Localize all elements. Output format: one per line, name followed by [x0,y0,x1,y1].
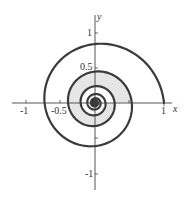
spiral-curve [44,44,164,147]
x-label-neg05: -0.5 [51,105,67,116]
y-label-1: 1 [87,27,92,38]
x-label-1: 1 [161,105,166,116]
spiral-chart: -1 -0.5 1 x y 1 0.5 -1 [0,0,188,198]
x-label-neg1: -1 [20,105,28,116]
x-axis-label: x [172,103,178,114]
y-axis-label: y [96,11,102,22]
y-label-neg1: -1 [85,168,93,179]
y-label-05: 0.5 [80,61,93,72]
